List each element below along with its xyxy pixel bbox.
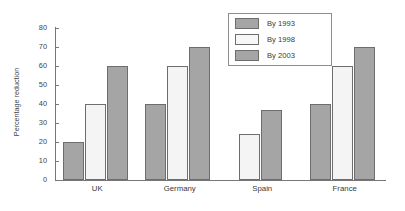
chart-legend: By 1993 By 1998 By 2003 bbox=[228, 13, 332, 66]
y-axis-tick-label: 80 bbox=[39, 23, 47, 33]
legend-label-by-2003: By 2003 bbox=[267, 49, 295, 62]
y-axis-tick: 70 bbox=[0, 42, 55, 52]
y-axis-tick-label: 30 bbox=[39, 118, 47, 128]
y-axis-tick-label: 70 bbox=[39, 42, 47, 52]
y-axis-tick-label: 10 bbox=[39, 156, 47, 166]
bar-uk-by-1993 bbox=[63, 142, 84, 180]
y-axis-tick: 50 bbox=[0, 80, 55, 90]
bar-spain-by-1998 bbox=[239, 134, 260, 180]
legend-swatch-by-1993 bbox=[235, 18, 259, 29]
y-axis-tick-label: 0 bbox=[43, 175, 47, 185]
bar-group bbox=[145, 28, 210, 180]
legend-label-by-1993: By 1993 bbox=[267, 17, 295, 30]
bar-germany-by-1998 bbox=[167, 66, 188, 180]
bar-uk-by-2003 bbox=[107, 66, 128, 180]
x-axis-label-germany: Germany bbox=[139, 184, 222, 193]
legend-item-by-1993: By 1993 bbox=[235, 17, 327, 30]
bar-groups bbox=[56, 28, 386, 180]
bar-group bbox=[63, 28, 128, 180]
legend-item-by-1998: By 1998 bbox=[235, 33, 327, 46]
legend-label-by-1998: By 1998 bbox=[267, 33, 295, 46]
x-axis-label-france: France bbox=[304, 184, 387, 193]
y-axis-tick: 10 bbox=[0, 156, 55, 166]
bar-germany-by-2003 bbox=[189, 47, 210, 180]
y-axis-tick-label: 50 bbox=[39, 80, 47, 90]
y-axis-tick: 40 bbox=[0, 99, 55, 109]
x-axis-label-uk: UK bbox=[56, 184, 139, 193]
y-axis-tick: 80 bbox=[0, 23, 55, 33]
bar-germany-by-1993 bbox=[145, 104, 166, 180]
legend-swatch-by-2003 bbox=[235, 50, 259, 61]
bar-france-by-1993 bbox=[310, 104, 331, 180]
bar-spain-by-2003 bbox=[261, 110, 282, 180]
bar-france-by-1998 bbox=[332, 66, 353, 180]
y-axis-tick: 0 bbox=[0, 175, 55, 185]
y-axis-tick: 60 bbox=[0, 61, 55, 71]
y-axis-tick-label: 40 bbox=[39, 99, 47, 109]
x-axis-line bbox=[55, 180, 386, 181]
bar-uk-by-1998 bbox=[85, 104, 106, 180]
y-axis-tick-label: 20 bbox=[39, 137, 47, 147]
bar-chart: Percentage reduction 01020304050607080 U… bbox=[0, 0, 405, 211]
y-axis-tick-label: 60 bbox=[39, 61, 47, 71]
y-axis-tick: 20 bbox=[0, 137, 55, 147]
legend-item-by-2003: By 2003 bbox=[235, 49, 327, 62]
legend-swatch-by-1998 bbox=[235, 34, 259, 45]
y-axis-tick: 30 bbox=[0, 118, 55, 128]
x-axis-label-spain: Spain bbox=[221, 184, 304, 193]
bar-france-by-2003 bbox=[354, 47, 375, 180]
